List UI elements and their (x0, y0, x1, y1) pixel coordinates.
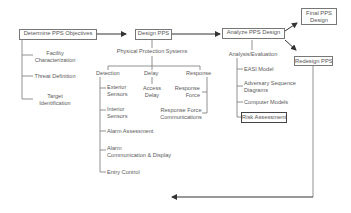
determine-objectives-box: Determine PPS Objectives (19, 29, 97, 40)
determine-objectives-label: Determine PPS Objectives (24, 30, 93, 36)
design-pps-box: Design PPS (135, 29, 172, 40)
risk-assessment-label: Risk Assessment (242, 114, 286, 120)
analyze-pps-label: Analyze PPS Design (227, 29, 281, 35)
final-pps-box: Final PPS Design (301, 8, 337, 25)
category-delay: Delay (144, 70, 158, 77)
response-force-communications: Response ForceCommunications (160, 107, 202, 120)
detection-exterior-sensors: ExteriorSensors (107, 84, 128, 97)
delay-access-delay: AccessDelay (137, 85, 167, 98)
pps-label: Physical Protection Systems (112, 48, 192, 55)
redesign-pps-label: Redesign PPS (295, 58, 333, 64)
analysis-computer-models: Computer Models (244, 99, 288, 106)
risk-assessment-box: Risk Assessment (241, 112, 287, 123)
category-response: Response (186, 70, 211, 77)
analysis-easi-model: EASI Model (244, 66, 274, 73)
final-pps-line1: Final PPS (302, 10, 336, 17)
detection-alarm-communication: AlarmCommunication & Display (107, 145, 171, 158)
detection-entry-control: Entry Control (107, 169, 140, 176)
design-pps-label: Design PPS (138, 30, 169, 36)
response-force: ResponseForce (168, 85, 200, 98)
objective-threat: Threat Definition (30, 73, 80, 80)
final-pps-line2: Design (302, 17, 336, 24)
detection-alarm-assessment: Alarm Assessment (107, 128, 153, 135)
redesign-pps-box: Redesign PPS (294, 56, 333, 66)
category-detection: Detection (96, 70, 120, 77)
objective-facility: FacilityCharacterization (30, 50, 80, 63)
detection-interior-sensors: InteriorSensors (107, 106, 128, 119)
objective-target: TargetIdentification (30, 93, 80, 106)
analysis-evaluation-label: Analysis/Evaluation (225, 51, 281, 58)
analysis-adversary-sequence: Adversary SequenceDiagrams (244, 80, 296, 93)
analyze-pps-box: Analyze PPS Design (222, 28, 285, 39)
